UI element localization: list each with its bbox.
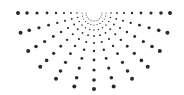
dot bbox=[60, 31, 62, 33]
dot bbox=[130, 77, 134, 81]
dot bbox=[93, 35, 95, 37]
dot bbox=[112, 84, 116, 88]
dot bbox=[26, 49, 30, 53]
dot bbox=[116, 52, 119, 55]
dot bbox=[146, 65, 150, 69]
dot bbox=[16, 11, 20, 15]
dot bbox=[93, 59, 96, 62]
dot bbox=[99, 23, 100, 24]
dot bbox=[83, 49, 85, 51]
dot bbox=[140, 59, 144, 63]
dot bbox=[133, 35, 136, 38]
dot bbox=[110, 76, 114, 80]
dot bbox=[75, 76, 79, 80]
dot bbox=[83, 18, 84, 19]
dot bbox=[102, 13, 103, 14]
dot bbox=[80, 57, 83, 60]
dot bbox=[159, 11, 163, 15]
dot bbox=[108, 38, 110, 40]
dot bbox=[150, 45, 154, 49]
sunburst-dot-graphic bbox=[0, 0, 184, 95]
dot bbox=[81, 12, 82, 13]
dot bbox=[89, 29, 91, 31]
dot bbox=[130, 22, 132, 24]
dot bbox=[140, 12, 143, 15]
dot bbox=[77, 17, 79, 19]
dot bbox=[96, 20, 97, 21]
dot bbox=[119, 27, 121, 29]
dot bbox=[55, 12, 57, 14]
dot bbox=[64, 61, 67, 64]
dot bbox=[43, 40, 46, 43]
dot bbox=[149, 11, 152, 14]
dot bbox=[102, 27, 104, 29]
dot bbox=[99, 18, 100, 19]
dot bbox=[59, 45, 62, 48]
dot bbox=[74, 45, 76, 47]
dot bbox=[72, 84, 76, 88]
dot bbox=[78, 66, 81, 69]
dot bbox=[103, 49, 105, 51]
dot bbox=[158, 49, 162, 53]
dot bbox=[112, 45, 114, 47]
dot bbox=[82, 32, 84, 34]
dot bbox=[47, 24, 50, 27]
dot bbox=[114, 33, 116, 35]
dot bbox=[77, 28, 79, 30]
dot bbox=[19, 31, 23, 35]
dot bbox=[131, 12, 133, 14]
dot bbox=[94, 21, 95, 22]
dot bbox=[25, 11, 29, 15]
dot bbox=[110, 12, 112, 14]
dot bbox=[69, 52, 72, 55]
dot bbox=[52, 35, 55, 38]
dot bbox=[87, 34, 89, 36]
dot bbox=[63, 12, 65, 14]
dot bbox=[35, 11, 38, 14]
dot bbox=[126, 69, 130, 73]
dot bbox=[105, 16, 106, 17]
dot bbox=[122, 20, 124, 22]
dot bbox=[100, 17, 101, 18]
dot bbox=[92, 87, 96, 91]
dot bbox=[108, 21, 110, 23]
dot bbox=[102, 21, 103, 22]
dot bbox=[142, 40, 145, 43]
dot bbox=[126, 31, 128, 33]
dot bbox=[79, 21, 81, 23]
dot bbox=[105, 12, 106, 13]
dot bbox=[87, 17, 88, 18]
dot bbox=[91, 20, 92, 21]
dot bbox=[115, 18, 117, 20]
dot bbox=[107, 66, 110, 69]
dot bbox=[93, 29, 95, 31]
dot bbox=[67, 27, 69, 29]
dot bbox=[85, 27, 87, 29]
dot bbox=[78, 38, 80, 40]
dot bbox=[34, 45, 38, 49]
dot bbox=[82, 16, 83, 17]
dot bbox=[105, 24, 107, 26]
dot bbox=[98, 19, 99, 20]
dot bbox=[168, 11, 172, 15]
dot bbox=[101, 15, 102, 16]
dot bbox=[133, 52, 136, 55]
dot bbox=[104, 18, 105, 19]
dot bbox=[123, 12, 125, 14]
dot bbox=[37, 26, 40, 29]
dot bbox=[85, 21, 86, 22]
dot bbox=[38, 65, 42, 69]
dot bbox=[157, 29, 161, 33]
dot bbox=[45, 59, 49, 63]
dot bbox=[105, 32, 107, 34]
dot bbox=[86, 15, 87, 16]
dot bbox=[27, 29, 31, 33]
dot bbox=[165, 31, 169, 35]
dot bbox=[59, 69, 63, 73]
dot bbox=[101, 41, 103, 43]
dot bbox=[87, 23, 88, 24]
dot bbox=[90, 19, 91, 20]
dot bbox=[93, 24, 94, 25]
dot bbox=[116, 12, 118, 14]
dot bbox=[52, 52, 55, 55]
